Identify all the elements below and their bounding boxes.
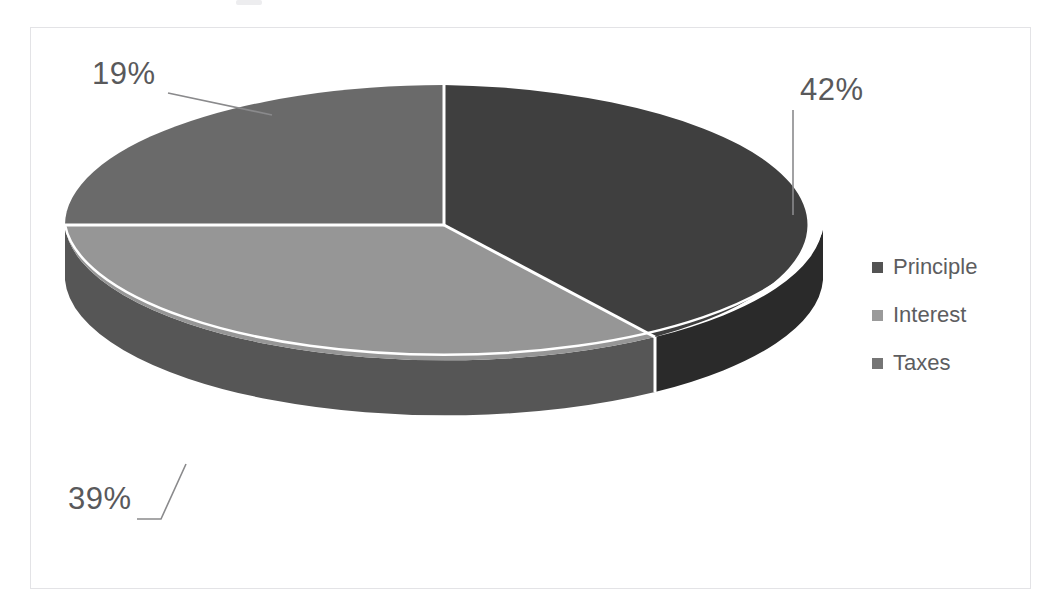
slice-top-taxes	[65, 85, 444, 225]
legend-swatch-principle	[872, 262, 883, 273]
data-label-interest: 39%	[68, 481, 132, 517]
legend-label-interest: Interest	[893, 302, 966, 328]
legend-item-principle[interactable]: Principle	[872, 243, 1022, 291]
data-label-principle: 42%	[800, 72, 864, 108]
legend-swatch-interest	[872, 310, 883, 321]
legend-label-taxes: Taxes	[893, 350, 950, 376]
legend: Principle Interest Taxes	[872, 243, 1022, 387]
pie-chart-image: 19% 42% 39% Principle Interest Taxes	[0, 0, 1057, 615]
legend-item-interest[interactable]: Interest	[872, 291, 1022, 339]
leader-line-interest	[137, 464, 186, 519]
legend-item-taxes[interactable]: Taxes	[872, 339, 1022, 387]
data-label-taxes: 19%	[92, 56, 156, 92]
legend-label-principle: Principle	[893, 254, 977, 280]
plot-area: 19% 42% 39% Principle Interest Taxes	[0, 0, 1057, 615]
legend-swatch-taxes	[872, 358, 883, 369]
